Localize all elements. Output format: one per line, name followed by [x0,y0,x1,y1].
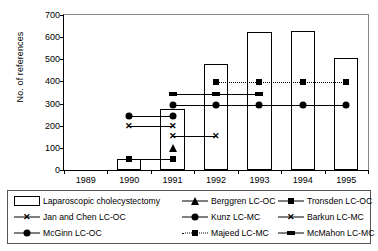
data-point-marker [126,112,133,119]
legend-item: Berggren LC-OC [182,193,278,209]
y-tick-mark [60,37,64,38]
data-point-marker [169,144,177,152]
legend-label: Berggren LC-OC [210,196,275,206]
x-tick-label: 1994 [293,175,313,185]
legend-key: ✕ [278,211,304,223]
x-tick-label: 1992 [206,175,226,185]
legend-label: Tronsden LC-OC [306,196,372,206]
x-tick-mark [325,170,326,174]
legend-label: McGinn LC-OC [42,228,102,238]
y-tick-mark [60,59,64,60]
legend-marker-icon [192,214,199,221]
series-line [216,82,346,83]
series-line [129,159,172,160]
bar [334,58,358,170]
legend-key [278,227,304,239]
legend-item: ✕Barkun LC-MC [278,209,378,225]
x-tick-label: 1991 [163,175,183,185]
legend-marker-icon: ✕ [287,213,296,222]
legend-marker-icon [24,230,31,237]
legend-item: Tronsden LC-OC [278,193,378,209]
legend-marker-icon [191,197,199,205]
series-line [129,126,172,127]
x-tick-label: 1993 [249,175,269,185]
legend-item: Kunz LC-MC [182,209,278,225]
legend-bar-swatch [14,196,40,206]
legend-item: Majeed LC-MC [182,225,278,241]
y-axis-label: No. of references [15,7,25,127]
legend-marker-icon: ✕ [23,213,32,222]
legend-label: Majeed LC-MC [210,228,269,238]
legend-item: Laparoscopic cholecystectomy [14,193,182,209]
data-point-marker: ✕ [125,121,134,130]
legend-key [278,195,304,207]
series-line [129,116,172,117]
y-tick-mark [60,126,64,127]
legend-key [14,227,40,239]
data-point-marker [256,101,263,108]
legend: Laparoscopic cholecystectomyBerggren LC-… [7,190,371,244]
plot-area: No. of references 0100200300400500600700… [0,0,378,180]
x-tick-label: 1989 [76,175,96,185]
data-point-marker [299,101,306,108]
data-point-marker [170,156,176,162]
data-point-marker [213,79,219,85]
legend-label: Laparoscopic cholecystectomy [42,196,160,206]
x-tick-mark [64,170,65,174]
data-point-marker [126,156,132,162]
x-tick-label: 1995 [336,175,356,185]
legend-key [182,211,208,223]
x-tick-label: 1990 [119,175,139,185]
legend-item: McGinn LC-OC [14,225,182,241]
legend-label: McMahon LC-MC [306,228,374,238]
data-point-marker [213,101,220,108]
x-tick-mark [368,170,369,174]
data-point-marker [343,79,349,85]
series-line [173,136,216,137]
data-point-marker [169,92,177,96]
y-tick-mark [60,15,64,16]
legend-key [182,195,208,207]
legend-item: McMahon LC-MC [278,225,378,241]
data-point-marker: ✕ [168,121,177,130]
legend-key: ✕ [14,211,40,223]
x-tick-mark [194,170,195,174]
y-tick-mark [60,104,64,105]
legend-item: ✕Jan and Chen LC-OC [14,209,182,225]
data-point-marker [300,79,306,85]
chart-figure: No. of references 0100200300400500600700… [0,0,378,251]
data-point-marker: ✕ [168,131,177,140]
data-point-marker [256,79,262,85]
x-tick-mark [107,170,108,174]
x-tick-mark [238,170,239,174]
legend-label: Kunz LC-MC [210,212,260,222]
data-point-marker [169,112,176,119]
legend-label: Jan and Chen LC-OC [42,212,126,222]
legend-key [182,227,208,239]
data-point-marker [255,92,263,96]
legend-marker-icon [288,198,294,204]
legend-label: Barkun LC-MC [306,212,364,222]
axes-frame: 0100200300400500600700 19891990199119921… [63,14,369,171]
data-point-marker [212,92,220,96]
x-tick-mark [151,170,152,174]
data-point-marker [169,101,176,108]
y-tick-mark [60,148,64,149]
legend-marker-icon [287,231,295,235]
data-point-marker [343,101,350,108]
data-point-marker: ✕ [212,131,221,140]
legend-marker-icon [192,230,198,236]
y-tick-mark [60,81,64,82]
x-tick-mark [281,170,282,174]
